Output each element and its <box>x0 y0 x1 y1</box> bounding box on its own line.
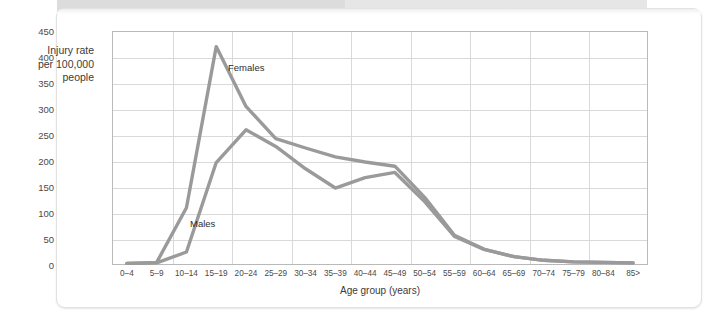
y-tick-label: 50 <box>14 234 54 245</box>
x-axis-title: Age group (years) <box>112 285 648 296</box>
x-tick-label: 85> <box>626 269 640 278</box>
x-tick-label: 20–24 <box>235 269 258 278</box>
x-tick-label: 0–4 <box>120 269 134 278</box>
x-tick-label: 60–64 <box>473 269 496 278</box>
x-tick-label: 5–9 <box>150 269 164 278</box>
y-tick-label: 400 <box>14 52 54 63</box>
x-tick-label: 45–49 <box>383 269 406 278</box>
y-tick-label: 0 <box>14 260 54 271</box>
x-tick-label: 30–34 <box>294 269 317 278</box>
x-axis-tick-labels: 0–45–910–1415–1920–2425–2930–3435–3940–4… <box>112 269 648 283</box>
y-tick-label: 200 <box>14 156 54 167</box>
series-line-females <box>127 47 633 264</box>
y-tick-label: 100 <box>14 208 54 219</box>
series-line-males <box>127 130 633 264</box>
x-tick-label: 75–79 <box>562 269 585 278</box>
x-tick-label: 40–44 <box>354 269 377 278</box>
series-label-males: Males <box>190 218 215 229</box>
x-tick-label: 55–59 <box>443 269 466 278</box>
series-label-females: Females <box>228 62 264 73</box>
x-tick-label: 65–69 <box>503 269 526 278</box>
y-tick-label: 150 <box>14 182 54 193</box>
series-lines <box>112 31 648 265</box>
x-tick-label: 70–74 <box>532 269 555 278</box>
injury-rate-line-chart: Injury rate per 100,000 people 050100150… <box>0 0 704 317</box>
x-tick-label: 80–84 <box>592 269 615 278</box>
x-tick-label: 25–29 <box>264 269 287 278</box>
y-tick-label: 250 <box>14 130 54 141</box>
x-tick-label: 50–54 <box>413 269 436 278</box>
y-tick-label: 350 <box>14 78 54 89</box>
y-tick-label: 300 <box>14 104 54 115</box>
x-tick-label: 15–19 <box>205 269 228 278</box>
x-tick-label: 10–14 <box>175 269 198 278</box>
x-tick-label: 35–39 <box>324 269 347 278</box>
y-tick-label: 450 <box>14 26 54 37</box>
